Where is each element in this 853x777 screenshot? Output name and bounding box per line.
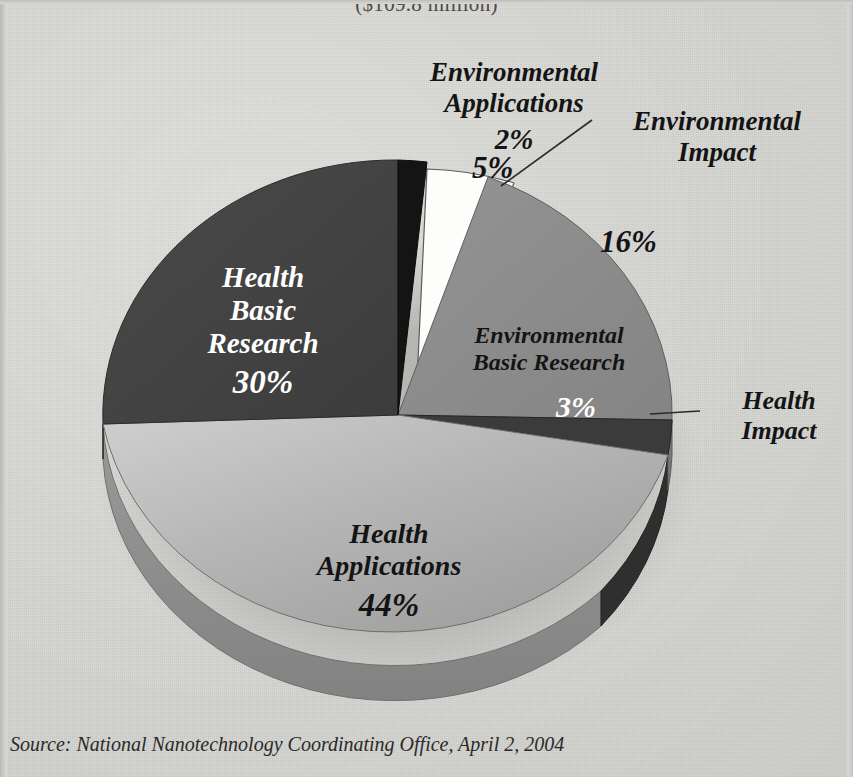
page-edge-top xyxy=(0,0,853,4)
label-environmental-impact: Environmental Impact xyxy=(596,106,838,168)
label-environmental-basic-research: Environmental Basic Research xyxy=(414,322,684,377)
label-health-basic-research-pct: 30% xyxy=(152,364,374,402)
page-edge-right xyxy=(847,0,853,777)
label-environmental-applications-text: Environmental Applications xyxy=(430,57,598,118)
label-health-applications: Health Applications 44% xyxy=(258,486,520,656)
source-note: Source: National Nanotechnology Coordina… xyxy=(10,733,564,756)
label-health-applications-pct: 44% xyxy=(258,587,520,625)
label-health-impact: Health Impact xyxy=(704,386,853,445)
label-health-basic-research-text: Health Basic Research xyxy=(207,261,318,359)
label-environmental-basic-research-pct: 16% xyxy=(600,224,690,259)
label-health-impact-pct: 3% xyxy=(556,390,636,424)
page-edge-left xyxy=(0,0,7,777)
label-environmental-impact-pct: 5% xyxy=(472,150,562,185)
label-health-basic-research: Health Basic Research 30% xyxy=(152,228,374,435)
label-health-applications-text: Health Applications xyxy=(317,518,462,581)
